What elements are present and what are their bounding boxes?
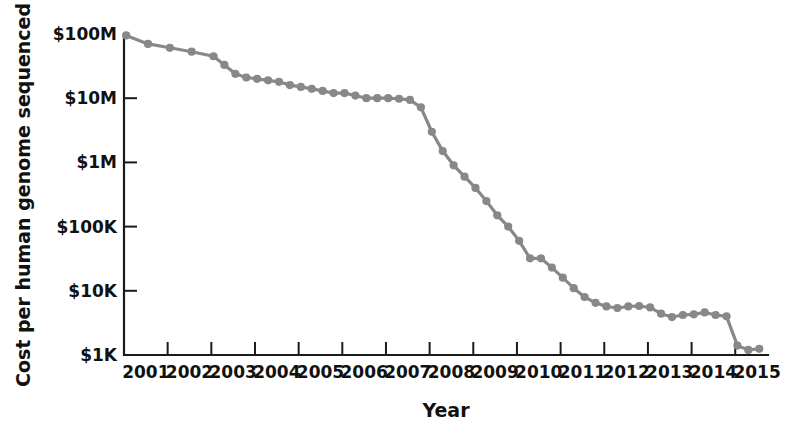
chart-canvas: Cost per human genome sequenced $100M$10… [0,0,797,431]
data-point [340,89,348,97]
x-tick-label-6: 2007 [384,362,431,382]
data-point [319,87,327,95]
data-point [329,89,337,97]
y-tick-label-0: $100M [53,24,117,44]
y-axis-title: Cost per human genome sequenced [12,3,34,387]
data-point [395,95,403,103]
x-axis-tick-labels: 2001200220032004200520062007200820092010… [122,362,781,382]
data-point [471,184,479,192]
data-point [209,52,217,60]
data-point [602,302,610,310]
data-point [231,70,239,78]
data-point [712,311,720,319]
data-point [581,293,589,301]
x-tick-label-1: 2002 [166,362,213,382]
x-tick-label-14: 2015 [733,362,780,382]
data-point [439,147,447,155]
data-point [351,91,359,99]
x-tick-label-3: 2004 [253,362,300,382]
data-point [668,313,676,321]
x-tick-label-11: 2012 [602,362,649,382]
data-point [755,345,763,353]
x-tick-label-12: 2013 [646,362,693,382]
data-point [537,254,545,262]
data-point [559,274,567,282]
data-point [635,302,643,310]
data-point [406,96,414,104]
x-tick-label-10: 2011 [559,362,606,382]
x-tick-label-7: 2008 [428,362,475,382]
data-point [504,223,512,231]
data-point [286,81,294,89]
data-point [701,308,709,316]
y-tick-label-4: $10K [68,281,117,301]
x-axis-title: Year [421,399,470,421]
data-point [188,48,196,56]
data-point [144,40,152,48]
data-point [166,44,174,52]
data-point [526,254,534,262]
data-point [308,85,316,93]
data-point [570,284,578,292]
data-point [493,211,501,219]
data-point [417,103,425,111]
data-point [591,299,599,307]
data-point [613,304,621,312]
data-point [690,310,698,318]
data-point [744,346,752,354]
data-point [657,310,665,318]
data-point [460,173,468,181]
data-point [362,94,370,102]
data-point [242,73,250,81]
x-tick-label-8: 2009 [471,362,518,382]
x-tick-label-0: 2001 [122,362,169,382]
data-point [122,31,130,39]
data-point [624,302,632,310]
data-point [646,303,654,311]
data-point [679,311,687,319]
y-tick-label-5: $1K [80,345,118,365]
x-tick-label-2: 2003 [209,362,256,382]
y-tick-label-3: $100K [57,217,118,237]
x-tick-label-9: 2010 [515,362,562,382]
data-point [450,161,458,169]
data-point [548,263,556,271]
data-point [220,61,228,69]
data-point [384,94,392,102]
data-point [733,342,741,350]
x-tick-label-5: 2006 [340,362,387,382]
data-point [253,75,261,83]
y-tick-label-2: $1M [76,152,117,172]
data-point [722,312,730,320]
data-point [275,78,283,86]
y-tick-label-1: $10M [65,88,117,108]
data-point [297,83,305,91]
data-point [428,128,436,136]
cost-per-genome-chart: Cost per human genome sequenced $100M$10… [0,0,797,431]
x-tick-label-4: 2005 [297,362,344,382]
x-tick-label-13: 2014 [690,362,737,382]
data-point [264,76,272,84]
data-point [515,237,523,245]
data-point [373,94,381,102]
data-point [482,197,490,205]
